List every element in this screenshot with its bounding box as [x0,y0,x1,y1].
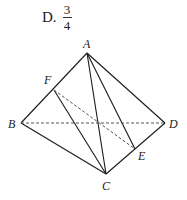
edge-ab [21,53,87,123]
label-f: F [43,73,52,87]
label-a: A [82,37,91,51]
tetrahedron-diagram: A B C D E F [0,0,187,200]
edge-ad [87,53,165,123]
edge-bc [21,123,106,174]
label-c: C [102,179,111,193]
label-b: B [8,117,16,131]
label-e: E [137,149,146,163]
dashed-edges [21,90,165,149]
edge-cd [106,123,165,174]
label-d: D [168,117,178,131]
edge-fc [54,90,106,174]
